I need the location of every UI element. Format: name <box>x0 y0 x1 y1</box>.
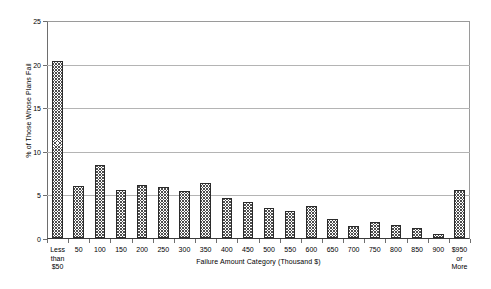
y-tick-label: 20 <box>1 61 41 68</box>
bar-chart: % of Those Whose Plans Fail 0510152025 L… <box>0 0 491 289</box>
x-tick-mark <box>449 239 450 243</box>
y-tick-label: 0 <box>1 236 41 243</box>
bar <box>200 183 211 238</box>
bar <box>454 190 465 238</box>
bar <box>412 228 423 238</box>
x-tick-mark <box>407 239 408 243</box>
bar <box>95 165 106 238</box>
y-tick-label: 10 <box>1 148 41 155</box>
x-tick-mark <box>322 239 323 243</box>
x-tick-mark <box>89 239 90 243</box>
x-tick-mark <box>364 239 365 243</box>
x-tick-mark <box>110 239 111 243</box>
x-tick-mark <box>301 239 302 243</box>
bar <box>137 185 148 238</box>
x-tick-mark <box>237 239 238 243</box>
x-tick-mark <box>428 239 429 243</box>
y-tick-mark <box>43 21 47 22</box>
x-tick-mark <box>195 239 196 243</box>
x-tick-mark <box>153 239 154 243</box>
bars-series <box>48 21 469 238</box>
bar <box>264 208 275 238</box>
bar <box>306 206 317 238</box>
bar <box>391 225 402 238</box>
bar <box>285 211 296 238</box>
bar <box>116 190 127 238</box>
x-tick-mark <box>174 239 175 243</box>
x-tick-mark <box>385 239 386 243</box>
y-tick-label: 5 <box>1 192 41 199</box>
x-tick-mark <box>132 239 133 243</box>
bar <box>370 222 381 238</box>
bar <box>433 234 444 238</box>
x-tick-mark <box>259 239 260 243</box>
x-tick-mark <box>216 239 217 243</box>
bar <box>327 219 338 238</box>
x-tick-mark <box>470 239 471 243</box>
y-tick-label: 25 <box>1 18 41 25</box>
x-tick-mark <box>343 239 344 243</box>
x-tick-mark <box>280 239 281 243</box>
y-tick-label: 15 <box>1 105 41 112</box>
x-axis-title: Failure Amount Category (Thousand $) <box>47 258 470 265</box>
bar <box>52 61 63 238</box>
bar <box>179 191 190 238</box>
y-tick-mark <box>43 108 47 109</box>
bar <box>158 187 169 238</box>
y-tick-mark <box>43 65 47 66</box>
bar <box>243 202 254 238</box>
bar <box>222 198 233 238</box>
y-tick-mark <box>43 152 47 153</box>
bar <box>73 186 84 238</box>
bar <box>348 226 359 238</box>
x-tick-mark <box>68 239 69 243</box>
y-tick-mark <box>43 195 47 196</box>
x-tick-mark <box>47 239 48 243</box>
